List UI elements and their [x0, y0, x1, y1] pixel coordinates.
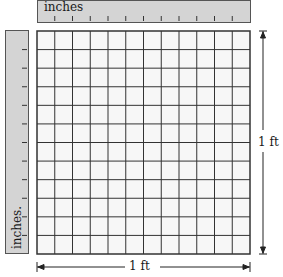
- height-label: 1 ft: [255, 135, 282, 149]
- grid-diagram: [0, 0, 283, 277]
- width-label: 1 ft: [126, 259, 153, 273]
